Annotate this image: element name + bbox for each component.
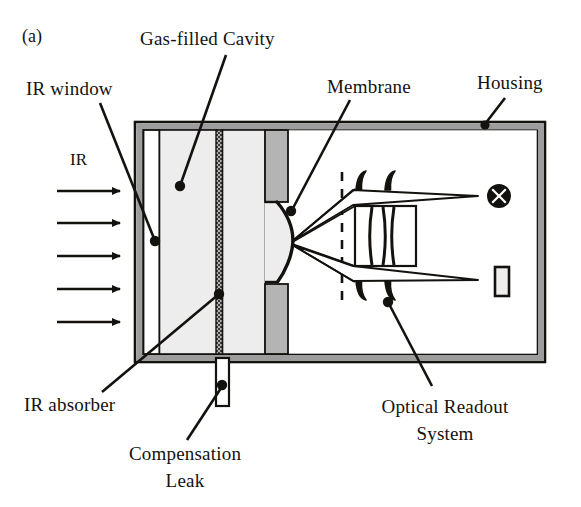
label-optical-readout-line2: System — [355, 423, 535, 445]
label-ir-window: IR window — [26, 78, 113, 100]
label-membrane: Membrane — [327, 76, 411, 98]
label-ir-absorber: IR absorber — [24, 394, 115, 416]
membrane-support-upper — [265, 130, 288, 202]
panel-label: (a) — [22, 26, 42, 47]
dot-optical-readout — [383, 297, 393, 307]
label-housing: Housing — [477, 72, 543, 94]
label-ir-beam: IR — [70, 150, 87, 170]
gas-chamber-assembly — [144, 130, 293, 354]
dot-ir-window — [150, 236, 160, 246]
label-compensation-leak-line2: Leak — [105, 470, 265, 492]
photodetector-icon — [495, 267, 509, 296]
housing-wall-left-fill — [137, 124, 143, 361]
ir-input-beam-arrows — [57, 191, 120, 322]
dot-ir-absorber — [214, 289, 224, 299]
leader-compensation-leak — [187, 385, 223, 440]
housing-wall-bottom-fill — [137, 355, 544, 361]
dot-housing — [480, 120, 489, 129]
dot-compensation-leak — [217, 380, 227, 390]
membrane-support-lower — [265, 284, 288, 354]
leader-housing — [485, 98, 505, 124]
dot-gas-filled-cavity — [175, 181, 185, 191]
housing-wall-right-fill — [538, 124, 544, 361]
gas-filled-cavity-rear — [223, 130, 266, 354]
figure-canvas: (a) Gas-filled Cavity IR window Membrane… — [0, 0, 581, 507]
label-compensation-leak-line1: Compensation — [105, 443, 265, 465]
dot-membrane — [286, 206, 296, 216]
label-optical-readout-line1: Optical Readout — [355, 396, 535, 418]
light-source-lamp-icon — [488, 185, 510, 207]
label-gas-filled-cavity: Gas-filled Cavity — [140, 28, 275, 50]
